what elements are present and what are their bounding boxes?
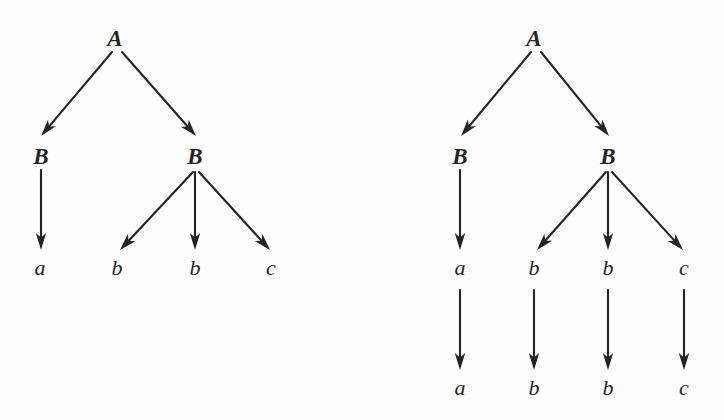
tree-edge-arrow [461, 52, 531, 136]
tree-node-nonterminal-a: A [526, 27, 541, 50]
edge-stem [128, 172, 193, 241]
tree-edge-arrow [537, 172, 606, 250]
tree-node-terminal-b: b [603, 377, 614, 399]
tree-edges-canvas [0, 0, 724, 420]
tree-node-terminal-a: a [455, 377, 466, 399]
tree-edge-arrow [190, 172, 200, 250]
tree-node-terminal-b: b [112, 257, 123, 279]
edge-stem [49, 52, 112, 127]
tree-node-nonterminal-a: A [107, 27, 122, 50]
tree-edge-arrow [120, 172, 193, 250]
tree-node-terminal-c: c [679, 257, 689, 279]
tree-edge-arrow [541, 52, 609, 136]
tree-edge-arrow [679, 290, 689, 370]
edge-stem [122, 52, 188, 127]
tree-edge-arrow [122, 52, 196, 136]
tree-node-terminal-c: c [679, 377, 689, 399]
tree-node-nonterminal-b: B [187, 145, 202, 168]
tree-edge-arrow [455, 290, 465, 370]
tree-node-terminal-a: a [455, 257, 466, 279]
tree-node-nonterminal-b: B [452, 145, 467, 168]
tree-node-terminal-b: b [529, 377, 540, 399]
edge-stem [541, 52, 601, 127]
tree-node-nonterminal-b: B [33, 145, 48, 168]
tree-edge-arrow [41, 52, 112, 136]
tree-node-terminal-c: c [266, 257, 276, 279]
tree-node-terminal-b: b [190, 257, 201, 279]
tree-node-terminal-b: b [603, 257, 614, 279]
tree-edge-arrow [36, 170, 46, 250]
edges-layer [36, 52, 689, 370]
tree-edge-arrow [529, 290, 539, 370]
edge-stem [469, 52, 531, 127]
tree-edge-arrow [603, 290, 613, 370]
edge-stem [545, 172, 606, 241]
tree-edge-arrow [612, 172, 683, 250]
edge-stem [199, 172, 262, 241]
tree-edge-arrow [603, 172, 613, 250]
tree-node-terminal-b: b [529, 257, 540, 279]
tree-node-nonterminal-b: B [600, 145, 615, 168]
figure-root: ABBabbcABBabbcabbc [0, 0, 724, 420]
edge-stem [612, 172, 675, 241]
tree-edge-arrow [455, 170, 465, 250]
tree-edge-arrow [199, 172, 270, 250]
tree-node-terminal-a: a [35, 257, 46, 279]
